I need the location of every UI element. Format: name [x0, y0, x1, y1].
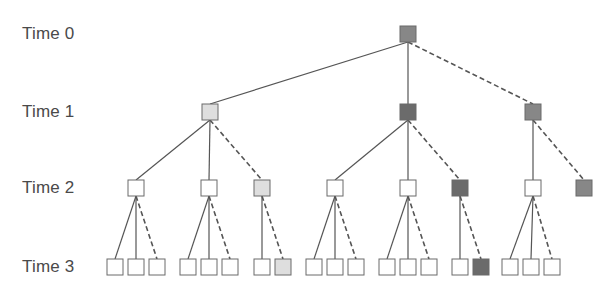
solid-edge [115, 196, 136, 259]
tree-node-t1c [525, 104, 541, 120]
dashed-edge [408, 120, 460, 180]
tree-node-t2b [201, 180, 217, 196]
tree-node-t3b3 [222, 259, 238, 275]
tree-node-t2c [254, 180, 270, 196]
tree-node-t0 [400, 26, 416, 42]
tree-node-t3g2 [523, 259, 539, 275]
solid-edge [210, 42, 408, 104]
tree-node-t3d1 [306, 259, 322, 275]
dashed-edge [408, 42, 533, 104]
tree-diagram [0, 0, 607, 297]
tree-node-t3c1 [254, 259, 270, 275]
tree-node-t3a3 [149, 259, 165, 275]
tree-node-t3d3 [348, 259, 364, 275]
tree-node-t3d2 [327, 259, 343, 275]
tree-node-t3f2 [473, 259, 489, 275]
solid-edge [209, 120, 210, 180]
tree-node-t1b [400, 104, 416, 120]
dashed-edge [408, 196, 429, 259]
dashed-edge [209, 196, 230, 259]
solid-edge [136, 120, 210, 180]
tree-node-t3g3 [544, 259, 560, 275]
solid-edge [335, 120, 408, 180]
dashed-edge [210, 120, 262, 180]
solid-edge [314, 196, 335, 259]
tree-node-t2f [452, 180, 468, 196]
tree-node-t3f1 [452, 259, 468, 275]
solid-edge [188, 196, 209, 259]
tree-node-t3b1 [180, 259, 196, 275]
tree-node-t3e3 [421, 259, 437, 275]
dashed-edge [262, 196, 283, 259]
dashed-edge [460, 196, 481, 259]
tree-node-t2d [327, 180, 343, 196]
tree-node-t3e2 [400, 259, 416, 275]
tree-node-t3b2 [201, 259, 217, 275]
tree-node-t3c2 [275, 259, 291, 275]
tree-node-t2h [576, 180, 592, 196]
tree-node-t2g [525, 180, 541, 196]
tree-node-t2e [400, 180, 416, 196]
tree-node-t2a [128, 180, 144, 196]
tree-node-t1a [202, 104, 218, 120]
dashed-edge [533, 196, 552, 259]
dashed-edge [533, 120, 584, 180]
tree-node-t3a2 [128, 259, 144, 275]
tree-edges [115, 42, 584, 259]
dashed-edge [335, 196, 356, 259]
dashed-edge [136, 196, 157, 259]
solid-edge [531, 196, 533, 259]
solid-edge [510, 196, 533, 259]
tree-node-t3e1 [379, 259, 395, 275]
solid-edge [387, 196, 408, 259]
tree-node-t3a1 [107, 259, 123, 275]
tree-node-t3g1 [502, 259, 518, 275]
